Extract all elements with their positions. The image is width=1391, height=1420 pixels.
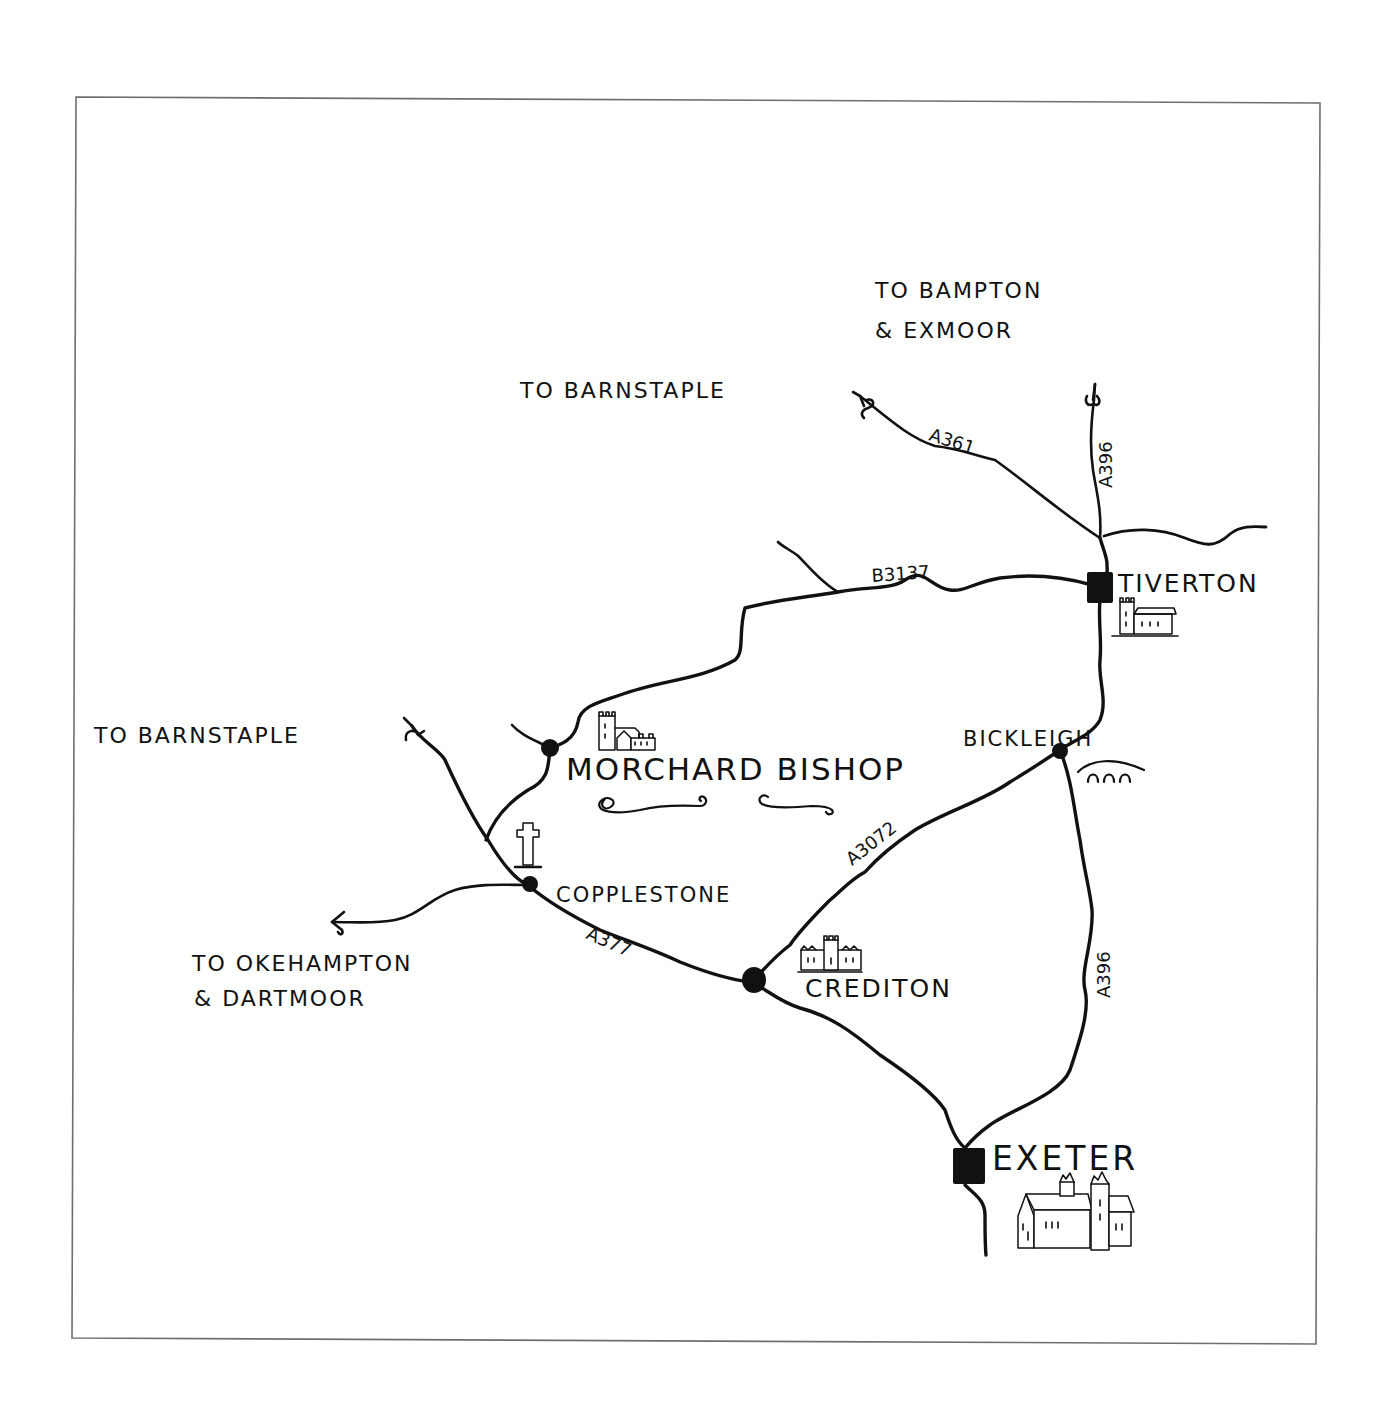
church-icon bbox=[798, 936, 862, 972]
place-label-crediton: CREDITON bbox=[805, 974, 952, 1003]
road-a377 bbox=[412, 726, 965, 1148]
copplestone-marker[interactable] bbox=[522, 876, 538, 892]
bridge-icon bbox=[1078, 761, 1144, 782]
road-label-b3137: B3137 bbox=[871, 561, 930, 586]
cathedral-icon bbox=[1018, 1172, 1134, 1250]
road-label-a396-north: A396 bbox=[1095, 441, 1116, 488]
scroll-flourish-icon bbox=[599, 795, 833, 814]
place-label-bickleigh: BICKLEIGH bbox=[963, 727, 1093, 751]
destination-barnstaple-west: TO BARNSTAPLE bbox=[93, 723, 300, 748]
road-spur-north bbox=[778, 542, 838, 592]
road-a396-south bbox=[965, 750, 1092, 1148]
crediton-marker[interactable] bbox=[742, 967, 766, 993]
road-label-a361: A361 bbox=[927, 424, 978, 458]
exeter-marker[interactable] bbox=[953, 1148, 985, 1184]
destination-bampton-line2: & EXMOOR bbox=[875, 318, 1013, 343]
destination-okehampton-line1: TO OKEHAMPTON bbox=[191, 951, 412, 976]
church-icon bbox=[599, 712, 655, 750]
place-label-tiverton: TIVERTON bbox=[1117, 569, 1259, 598]
destination-barnstaple-north: TO BARNSTAPLE bbox=[519, 378, 726, 403]
morchard-bishop-marker[interactable] bbox=[541, 739, 559, 757]
place-label-copplestone: COPPLESTONE bbox=[556, 883, 731, 907]
road-label-a396-south: A396 bbox=[1093, 951, 1114, 998]
destination-okehampton-line2: & DARTMOOR bbox=[194, 986, 366, 1011]
cross-icon bbox=[515, 823, 541, 867]
road-morchard-to-a377 bbox=[486, 748, 550, 840]
river-exe-tributary bbox=[1104, 527, 1266, 545]
tiverton-marker[interactable] bbox=[1087, 572, 1113, 603]
road-a361 bbox=[860, 396, 1100, 538]
place-label-exeter: EXETER bbox=[992, 1139, 1138, 1178]
road-label-a3072: A3072 bbox=[842, 817, 901, 869]
church-icon bbox=[1112, 598, 1178, 636]
place-label-morchard-bishop: MORCHARD BISHOP bbox=[566, 751, 905, 787]
road-exeter-south bbox=[965, 1185, 986, 1255]
road-label-a377: A377 bbox=[583, 922, 634, 960]
destination-bampton-line1: TO BAMPTON bbox=[874, 278, 1042, 303]
road-to-okehampton bbox=[332, 885, 528, 923]
road-b3137 bbox=[550, 575, 1092, 748]
route-map: TO BAMPTON & EXMOOR TO BARNSTAPLE TO BAR… bbox=[0, 0, 1391, 1420]
